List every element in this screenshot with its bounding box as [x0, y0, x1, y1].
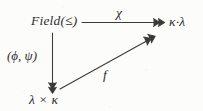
commutative-diagram-figure: Field(≤) κ·λ λ × κ χ (ϕ, ψ) f	[0, 0, 203, 111]
edge-label-chi: χ	[116, 6, 122, 20]
chi-arrow-head-inner	[158, 19, 164, 27]
f-arrow	[60, 35, 155, 89]
edge-label-phi-psi: (ϕ, ψ)	[7, 49, 37, 62]
node-lambda-times-kappa: λ × κ	[29, 93, 58, 107]
edge-label-f: f	[103, 68, 107, 82]
node-field: Field(≤)	[31, 14, 78, 28]
chi-arrow	[82, 19, 165, 27]
node-kappa-lambda: κ·λ	[169, 15, 185, 29]
phipsi-arrow	[49, 33, 57, 93]
